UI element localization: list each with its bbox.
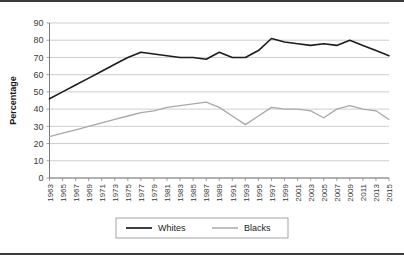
- y-axis-tick-label: 30: [33, 122, 43, 132]
- legend-label-whites: Whites: [158, 223, 186, 233]
- x-axis-tick-label: 1971: [98, 183, 107, 201]
- chart-figure: 0102030405060708090Percentage19631965196…: [0, 0, 404, 255]
- x-axis-tick-label: 1999: [281, 183, 290, 201]
- x-axis-tick-label: 1965: [59, 183, 68, 201]
- y-axis-tick-label: 60: [33, 70, 43, 80]
- y-axis-tick-label: 0: [38, 173, 43, 183]
- x-axis-tick-label: 1981: [163, 183, 172, 201]
- line-chart: 0102030405060708090Percentage19631965196…: [0, 2, 404, 255]
- x-axis-tick-label: 2013: [372, 183, 381, 201]
- x-axis-tick-label: 2001: [294, 183, 303, 201]
- x-axis-tick-label: 1989: [215, 183, 224, 201]
- x-axis-tick-label: 2011: [359, 183, 368, 201]
- x-axis-tick-label: 1979: [150, 183, 159, 201]
- y-axis-tick-label: 20: [33, 139, 43, 149]
- x-axis-tick-label: 1969: [85, 183, 94, 201]
- y-axis-tick-label: 80: [33, 35, 43, 45]
- x-axis-tick-label: 1963: [46, 183, 55, 201]
- y-axis-tick-label: 40: [33, 104, 43, 114]
- series-line-whites: [50, 39, 390, 99]
- x-axis-tick-label: 1973: [111, 183, 120, 201]
- y-axis-tick-label: 90: [33, 18, 43, 28]
- y-axis-tick-label: 50: [33, 87, 43, 97]
- x-axis-tick-label: 1995: [255, 183, 264, 201]
- x-axis-tick-label: 2003: [307, 183, 316, 201]
- x-axis-tick-label: 1997: [268, 183, 277, 201]
- series-line-blacks: [50, 102, 390, 136]
- x-axis-tick-label: 1985: [189, 183, 198, 201]
- x-axis-tick-label: 1975: [124, 183, 133, 201]
- x-axis-tick-label: 1977: [137, 183, 146, 201]
- x-axis-tick-label: 1983: [176, 183, 185, 201]
- x-axis-tick-label: 2009: [346, 183, 355, 201]
- x-axis-tick-label: 2005: [320, 183, 329, 201]
- y-axis-tick-label: 70: [33, 53, 43, 63]
- x-axis-tick-label: 2015: [385, 183, 394, 201]
- chart-plot-area: 0102030405060708090Percentage19631965196…: [0, 2, 404, 255]
- y-axis-title: Percentage: [8, 76, 18, 125]
- legend-label-blacks: Blacks: [244, 223, 271, 233]
- x-axis-tick-label: 1993: [242, 183, 251, 201]
- x-axis-tick-label: 2007: [333, 183, 342, 201]
- y-axis-tick-label: 10: [33, 156, 43, 166]
- x-axis-tick-label: 1991: [229, 183, 238, 201]
- x-axis-tick-label: 1967: [72, 183, 81, 201]
- x-axis-tick-label: 1987: [202, 183, 211, 201]
